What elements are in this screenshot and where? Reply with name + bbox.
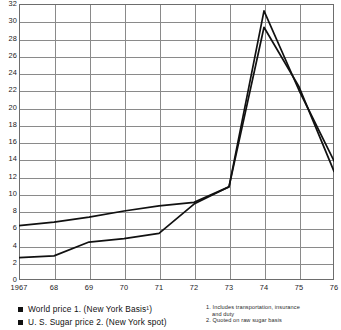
y-axis-tick-label: 32 — [1, 0, 17, 7]
x-axis-tick-label: 71 — [155, 283, 164, 292]
y-axis-tick-label: 12 — [1, 173, 17, 180]
y-axis-tick-label: 2 — [1, 259, 17, 266]
y-axis-tick-label: 8 — [1, 207, 17, 214]
y-axis-tick-label: 16 — [1, 138, 17, 145]
legend-item-us-sugar-price: U. S. Sugar price 2. (New York spot) — [18, 316, 208, 329]
y-axis-tick-label: 20 — [1, 104, 17, 111]
y-axis-tick-label: 14 — [1, 155, 17, 162]
x-axis-tick-label: 70 — [120, 283, 129, 292]
footnote-1-line-2: and duty — [206, 311, 338, 318]
y-axis-tick-label: 6 — [1, 224, 17, 231]
legend-item-label: U. S. Sugar price 2. (New York spot) — [28, 318, 167, 327]
legend-item-world-price: World price 1. (New York Basis¹) — [18, 303, 208, 316]
x-axis-tick-label: 68 — [50, 283, 59, 292]
y-axis-tick-label: 22 — [1, 86, 17, 93]
chart-footnotes: 1. Includes transportation, insurance an… — [206, 304, 338, 324]
legend-item-label: World price 1. (New York Basis¹) — [28, 305, 152, 314]
legend-swatch-icon — [18, 320, 23, 325]
y-axis-tick-label: 28 — [1, 35, 17, 42]
y-axis-labels: 02468101214161820222426283032 — [0, 0, 17, 330]
x-axis-tick-label: 1967 — [10, 283, 27, 292]
y-axis-tick-label: 4 — [1, 242, 17, 249]
footnote-1-line-1: 1. Includes transportation, insurance — [206, 304, 338, 311]
legend-swatch-icon — [18, 307, 23, 312]
y-axis-tick-label: 26 — [1, 52, 17, 59]
x-axis-tick-label: 73 — [225, 283, 234, 292]
x-axis-tick-label: 74 — [260, 283, 269, 292]
chart-legend: World price 1. (New York Basis¹) U. S. S… — [18, 303, 208, 329]
x-axis-tick-label: 76 — [330, 283, 339, 292]
y-axis-tick-label: 10 — [1, 190, 17, 197]
sugar-price-line-chart: 02468101214161820222426283032 1967686970… — [0, 0, 341, 330]
y-axis-tick-label: 18 — [1, 121, 17, 128]
x-axis-tick-label: 75 — [295, 283, 304, 292]
data-series-layer — [19, 4, 334, 280]
y-axis-tick-label: 24 — [1, 69, 17, 76]
x-axis-tick-label: 69 — [85, 283, 94, 292]
x-axis-labels: 1967686970717273747576 — [0, 283, 341, 297]
x-axis-tick-label: 72 — [190, 283, 199, 292]
y-axis-tick-label: 30 — [1, 17, 17, 24]
series-line — [19, 11, 334, 226]
footnote-2-line-1: 2. Quoted on raw sugar basis — [206, 317, 338, 324]
